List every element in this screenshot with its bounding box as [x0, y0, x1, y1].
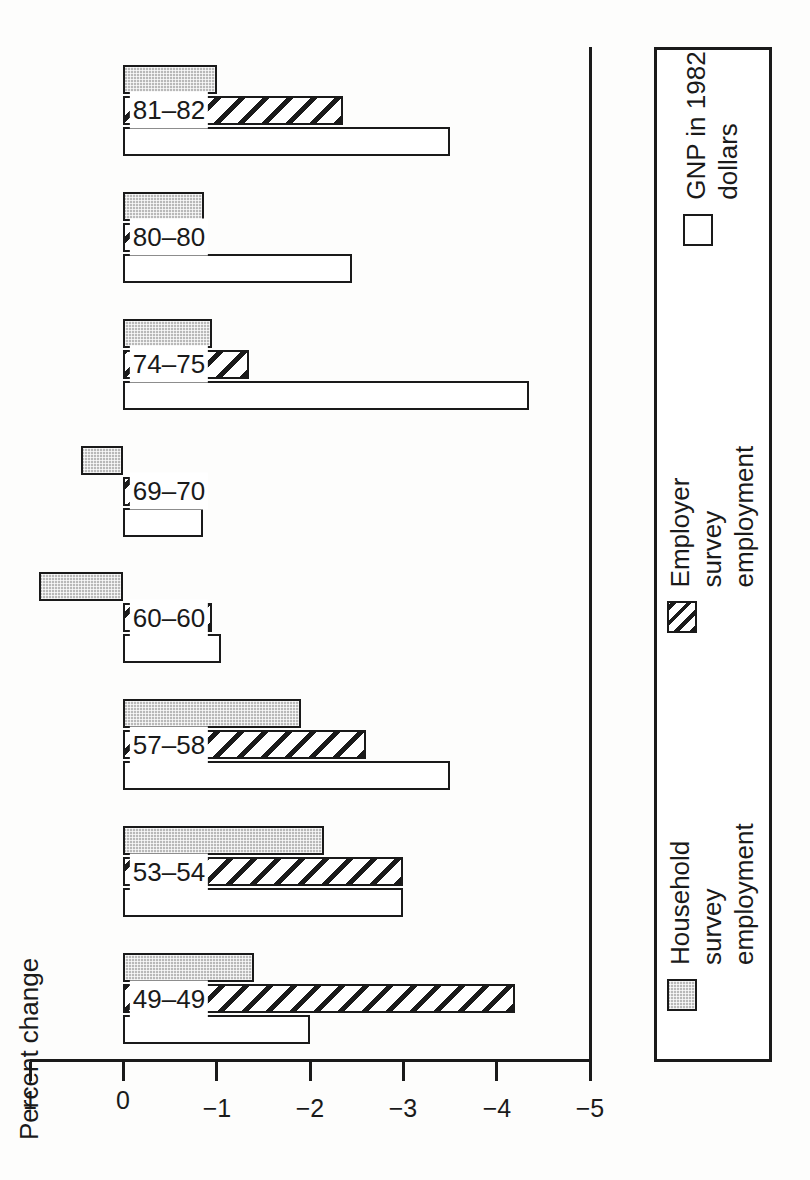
bar-household	[123, 953, 254, 982]
legend-label: Household survey employment	[665, 823, 760, 965]
bar-gnp	[123, 127, 450, 156]
bar-group: 49–49	[30, 935, 590, 1062]
category-label: 69–70	[130, 473, 208, 510]
category-label: 49–49	[130, 980, 208, 1017]
axis-tick	[29, 1062, 32, 1081]
bar-group: 81–82	[30, 47, 590, 174]
legend-label: Employer survey employment	[665, 446, 760, 588]
legend-swatch-open	[683, 214, 713, 246]
category-label: 57–58	[130, 726, 208, 763]
category-label: 60–60	[130, 599, 208, 636]
bar-gnp	[123, 381, 529, 410]
axis-tick-label: −3	[389, 1096, 418, 1121]
axis-tick	[122, 1062, 125, 1081]
bar-household	[81, 446, 123, 475]
category-label: 81–82	[130, 92, 208, 129]
legend-swatch-dotted	[667, 979, 697, 1011]
bar-gnp	[123, 254, 352, 283]
bar-household	[39, 572, 123, 601]
bar-gnp	[123, 1015, 310, 1044]
legend-item: Employer survey employment	[665, 446, 760, 634]
bar-gnp	[123, 888, 403, 917]
axis-tick	[589, 1062, 592, 1081]
bar-group: 53–54	[30, 808, 590, 935]
axis-tick	[495, 1062, 498, 1081]
axis-tick	[402, 1062, 405, 1081]
axis-tick-label: 1	[23, 1088, 37, 1113]
bar-household	[123, 699, 300, 728]
legend-label: GNP in 1982 dollars	[681, 50, 744, 200]
bar-gnp	[123, 634, 221, 663]
bar-group: 60–60	[30, 555, 590, 682]
category-label: 74–75	[130, 346, 208, 383]
bar-group: 74–75	[30, 301, 590, 428]
bar-household	[123, 319, 212, 348]
bar-group: 57–58	[30, 681, 590, 808]
axis-tick-label: −2	[296, 1096, 325, 1121]
chart-figure: Percent change 10−1−2−3−4−5 49–4953–5457…	[0, 0, 810, 1180]
bar-gnp	[123, 508, 202, 537]
plot-area: 10−1−2−3−4−5 49–4953–5457–5860–6069–7074…	[30, 47, 590, 1062]
bar-gnp	[123, 761, 450, 790]
legend-item: Household survey employment	[665, 823, 760, 1011]
bar-household	[123, 192, 203, 221]
bar-household	[123, 826, 324, 855]
category-label: 80–80	[130, 219, 208, 256]
axis-tick-label: 0	[116, 1088, 130, 1113]
bar-household	[123, 65, 216, 94]
axis-tick-label: −5	[576, 1096, 605, 1121]
axis-tick	[309, 1062, 312, 1081]
bar-group: 80–80	[30, 174, 590, 301]
axis-tick-label: −1	[202, 1096, 231, 1121]
axis-tick	[215, 1062, 218, 1081]
bar-group: 69–70	[30, 428, 590, 555]
axis-tick-label: −4	[482, 1096, 511, 1121]
legend-swatch-hatched	[667, 601, 697, 633]
chart-legend: Household survey employmentEmployer surv…	[654, 47, 772, 1062]
category-label: 53–54	[130, 853, 208, 890]
legend-item: GNP in 1982 dollars	[681, 50, 744, 246]
